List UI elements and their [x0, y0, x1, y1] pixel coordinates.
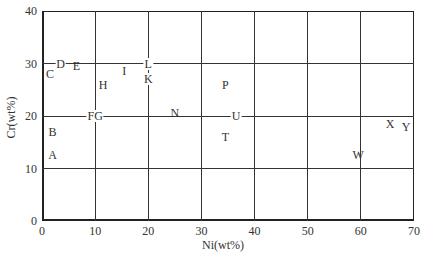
point-label-l: L	[144, 58, 153, 70]
y-gridline	[42, 168, 414, 169]
x-tick-label: 50	[302, 224, 314, 239]
x-tick-label: 10	[89, 224, 101, 239]
y-tick-label: 0	[0, 214, 37, 229]
point-label-n: N	[170, 107, 181, 119]
y-tick-label: 10	[0, 161, 37, 176]
point-label-k: K	[143, 73, 154, 85]
point-label-d: D	[55, 58, 66, 70]
scatter-chart: 010203040506070 010203040 ABCDEFGHIKLNPT…	[0, 0, 426, 255]
point-label-c: C	[45, 68, 55, 80]
point-label-y: Y	[401, 121, 412, 133]
point-label-t: T	[221, 131, 230, 143]
point-label-u: U	[231, 110, 242, 122]
point-label-h: H	[98, 79, 109, 91]
x-axis-label: Ni(wt%)	[202, 238, 244, 253]
y-axis-label: Cr(wt%)	[4, 93, 19, 143]
point-label-i: I	[121, 65, 127, 77]
point-label-x: X	[385, 118, 396, 130]
point-label-a: A	[47, 149, 58, 161]
y-tick-label: 30	[0, 56, 37, 71]
y-tick-label: 40	[0, 4, 37, 19]
x-tick-label: 0	[39, 224, 45, 239]
y-gridline	[42, 63, 414, 64]
x-tick-label: 60	[355, 224, 367, 239]
point-label-p: P	[221, 79, 230, 91]
point-label-e: E	[72, 60, 81, 72]
point-label-b: B	[48, 126, 58, 138]
point-label-w: W	[352, 149, 365, 161]
x-tick-label: 20	[142, 224, 154, 239]
x-tick-label: 40	[249, 224, 261, 239]
point-label-fg: FG	[86, 110, 103, 122]
x-tick-label: 70	[408, 224, 420, 239]
x-tick-label: 30	[195, 224, 207, 239]
